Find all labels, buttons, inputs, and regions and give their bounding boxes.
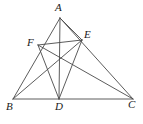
segment-EB <box>13 40 82 99</box>
vertex-label-A: A <box>55 2 62 13</box>
side-AC <box>60 18 133 99</box>
segment-FD <box>38 45 59 99</box>
side-AB <box>13 18 60 99</box>
segment-AE <box>60 18 82 40</box>
vertex-label-F: F <box>27 37 34 48</box>
diagram-canvas <box>0 0 143 124</box>
vertex-label-E: E <box>84 29 91 40</box>
segment-FC <box>38 45 133 99</box>
vertex-label-D: D <box>55 101 63 112</box>
geometry-diagram: A B C D E F <box>0 0 143 124</box>
vertex-label-B: B <box>6 101 13 112</box>
vertex-label-C: C <box>128 99 135 110</box>
segment-ED <box>59 40 82 99</box>
